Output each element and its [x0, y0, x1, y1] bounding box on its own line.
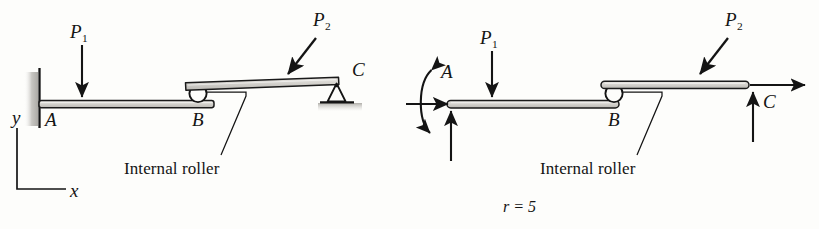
load-label-p2: P2 — [313, 10, 331, 32]
fbd-load-label-p2-symbol: P — [725, 9, 737, 30]
coordinate-axes-icon — [17, 128, 66, 189]
load-label-p1: P1 — [70, 22, 88, 44]
load-label-p1-subscript: 1 — [82, 32, 88, 44]
load-label-p2-subscript: 2 — [325, 20, 331, 32]
load-arrow-p2 — [288, 38, 316, 74]
point-label-a: A — [45, 110, 57, 129]
fbd-point-label-a: A — [441, 62, 453, 81]
internal-roller-annotation: Internal roller — [124, 160, 219, 177]
axis-label-y: y — [12, 108, 20, 127]
fbd-load-label-p1-subscript: 1 — [492, 38, 498, 50]
fbd-load-label-p2: P2 — [725, 10, 743, 32]
fbd-beam-segment-ab — [447, 101, 619, 108]
right-free-body-diagram — [406, 38, 805, 161]
fbd-point-label-b: B — [608, 110, 620, 129]
point-label-b: B — [192, 110, 204, 129]
reaction-moment-arc-a — [421, 70, 432, 133]
fbd-load-label-p2-subscript: 2 — [737, 20, 743, 32]
fbd-load-label-p1: P1 — [480, 28, 498, 50]
point-label-c: C — [352, 60, 365, 79]
fbd-internal-roller-annotation: Internal roller — [540, 160, 635, 177]
figure-canvas — [0, 0, 819, 229]
fbd-load-arrow-p2 — [700, 38, 728, 74]
beam-figure: y x A B C P1 P2 Internal roller A B C P1… — [0, 0, 819, 229]
beam-segment-ab — [39, 101, 214, 108]
load-label-p2-symbol: P — [313, 9, 325, 30]
fbd-internal-roller-leader-line — [622, 92, 662, 155]
fixed-support-wall-icon — [24, 68, 40, 128]
axis-label-x: x — [70, 181, 78, 200]
fbd-beam-segment-bc — [601, 81, 749, 88]
reaction-count-label: r = 5 — [503, 199, 536, 215]
pin-support-icon — [318, 84, 362, 112]
fbd-load-label-p1-symbol: P — [480, 27, 492, 48]
load-label-p1-symbol: P — [70, 21, 82, 42]
fbd-point-label-c: C — [763, 92, 776, 111]
beam-segment-bc — [186, 77, 339, 90]
